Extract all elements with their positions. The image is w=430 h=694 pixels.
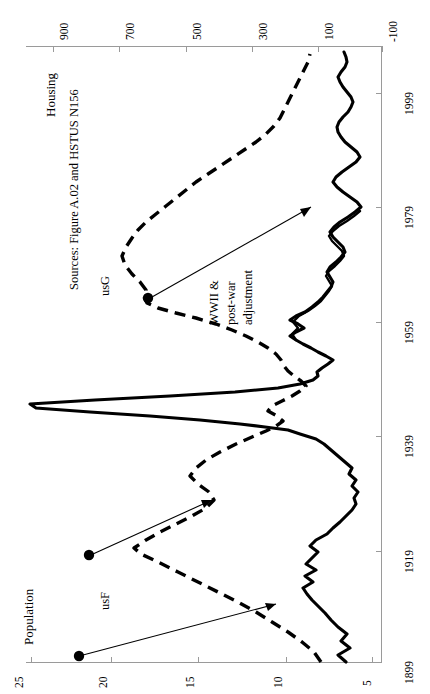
annotation-arrow-early xyxy=(74,603,276,661)
plot-area xyxy=(0,0,430,694)
annotation-arrow-interwar xyxy=(84,500,212,560)
marker-dot-1899 xyxy=(74,651,84,661)
series-path-usF-overlay xyxy=(292,211,360,340)
marker-dot-1959 xyxy=(143,293,153,303)
series-path-usF xyxy=(30,52,361,662)
annotation-arrow-wwii xyxy=(143,207,311,303)
series-path-usG xyxy=(122,54,321,662)
figure-canvas: 900 700 500 300 100 -100 Housing Sources… xyxy=(0,0,430,694)
marker-dot-1919 xyxy=(84,550,94,560)
